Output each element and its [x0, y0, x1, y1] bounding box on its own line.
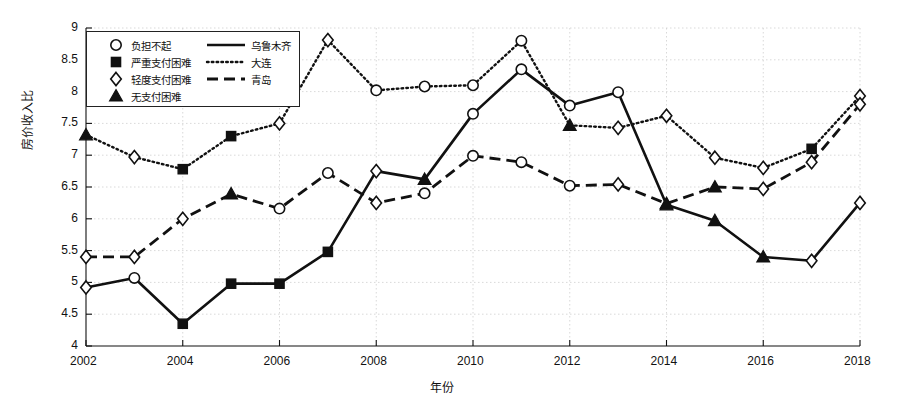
legend-city-label: 大连: [251, 55, 271, 70]
chart-figure: 房价收入比 年份 负担不起严重支付困难轻度支付困难无支付困难乌鲁木齐大连青岛 4…: [0, 0, 905, 407]
legend: 负担不起严重支付困难轻度支付困难无支付困难乌鲁木齐大连青岛: [86, 31, 300, 107]
square-marker: [227, 279, 236, 288]
square-marker: [111, 57, 120, 66]
x-axis-tick-label: 2002: [70, 354, 97, 368]
circle-marker: [323, 168, 333, 178]
diamond-marker: [129, 151, 140, 164]
circle-marker: [565, 100, 575, 110]
square-marker: [275, 279, 284, 288]
y-axis-tick-label: 5: [44, 274, 78, 288]
y-axis-tick-label: 8.5: [44, 52, 78, 66]
y-axis-tick-label: 8: [44, 84, 78, 98]
y-axis-tick-label: 6.5: [44, 179, 78, 193]
circle-marker: [468, 109, 478, 119]
diamond-marker: [81, 250, 92, 263]
legend-marker-label: 负担不起: [131, 38, 171, 53]
diamond-marker: [758, 161, 769, 174]
diamond-marker: [661, 109, 672, 122]
square-marker: [178, 165, 187, 174]
y-axis-tick-label: 7: [44, 147, 78, 161]
triangle-marker: [110, 90, 123, 101]
x-axis-tick-label: 2018: [844, 354, 871, 368]
square-marker: [807, 144, 816, 153]
square-marker: [323, 247, 332, 256]
circle-marker: [516, 36, 526, 46]
circle-marker: [613, 87, 623, 97]
circle-marker: [419, 81, 429, 91]
x-axis-tick-label: 2006: [264, 354, 291, 368]
circle-marker: [516, 64, 526, 74]
x-axis-tick-label: 2008: [360, 354, 387, 368]
circle-marker: [129, 273, 139, 283]
circle-marker: [565, 181, 575, 191]
circle-marker: [371, 85, 381, 95]
y-axis-tick-label: 5.5: [44, 243, 78, 257]
circle-marker: [111, 40, 121, 50]
legend-marker-label: 无支付困难: [131, 89, 181, 104]
legend-marker-label: 轻度支付困难: [131, 72, 191, 87]
triangle-marker: [225, 188, 238, 199]
legend-marker-label: 严重支付困难: [131, 55, 191, 70]
circle-marker: [419, 188, 429, 198]
diamond-marker: [758, 182, 769, 195]
x-axis-tick-label: 2016: [747, 354, 774, 368]
y-axis-tick-label: 4: [44, 338, 78, 352]
diamond-marker: [710, 151, 721, 164]
y-axis-tick-label: 9: [44, 20, 78, 34]
y-axis-tick-label: 4.5: [44, 306, 78, 320]
square-marker: [178, 319, 187, 328]
legend-city-label: 青岛: [251, 72, 271, 87]
y-axis-tick-label: 6: [44, 211, 78, 225]
x-axis-tick-label: 2012: [554, 354, 581, 368]
triangle-marker: [563, 119, 576, 130]
y-axis-tick-label: 7.5: [44, 115, 78, 129]
x-axis-tick-label: 2004: [167, 354, 194, 368]
diamond-marker: [371, 196, 382, 209]
circle-marker: [468, 80, 478, 90]
circle-marker: [516, 157, 526, 167]
circle-marker: [274, 203, 284, 213]
x-axis-tick-label: 2014: [651, 354, 678, 368]
x-axis-tick-label: 2010: [457, 354, 484, 368]
x-axis-title: 年份: [430, 378, 454, 395]
square-marker: [227, 132, 236, 141]
diamond-marker: [111, 72, 122, 85]
triangle-marker: [80, 128, 93, 139]
y-axis-title: 房价收入比: [18, 90, 35, 150]
circle-marker: [468, 151, 478, 161]
legend-city-label: 乌鲁木齐: [251, 38, 291, 53]
diamond-marker: [613, 178, 624, 191]
